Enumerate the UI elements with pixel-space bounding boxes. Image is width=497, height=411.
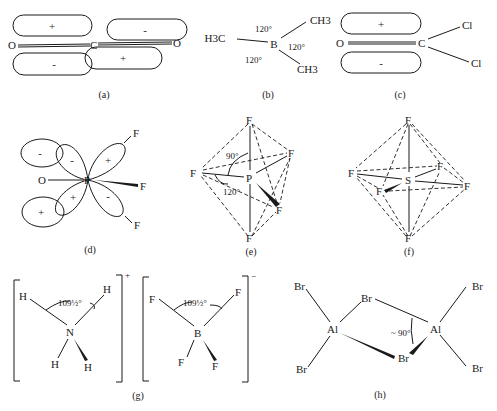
lobe-sign: - — [143, 24, 147, 36]
lobe-sign: + — [49, 20, 55, 32]
atom-label: N — [66, 326, 74, 338]
angle-label: 109½° — [183, 298, 207, 308]
atom-label: F — [149, 293, 155, 305]
atom-label: C — [90, 39, 97, 51]
panel-a-co2: + - - + O C O (a) — [8, 15, 187, 101]
atom-label: F — [437, 160, 443, 172]
panel-caption: (a) — [98, 89, 109, 101]
angle-label: 120° — [245, 55, 263, 65]
panel-c-phosgene: + - O C Cl Cl (c) — [336, 13, 481, 101]
panel-caption: (c) — [394, 89, 405, 101]
lobe-sign: - — [70, 154, 74, 166]
atom-label: F — [133, 127, 139, 139]
charge-label: + — [125, 270, 130, 280]
lobe-sign: + — [38, 206, 44, 218]
atom-label: Br — [361, 292, 372, 304]
angle-label: ~ 90° — [391, 328, 411, 338]
atom-label: H — [84, 361, 92, 373]
atom-label: O — [38, 174, 46, 186]
atom-label: C — [418, 37, 425, 49]
atom-label: F — [140, 180, 146, 192]
atom-label: Br — [472, 280, 483, 292]
angle-label: 120° — [223, 187, 241, 197]
lobe-sign: - — [38, 147, 42, 159]
lobe-sign: + — [120, 52, 126, 64]
atom-label: F — [246, 114, 252, 126]
atom-label: F — [464, 180, 470, 192]
panel-f-sf6: F F F S F F F (f) — [348, 114, 470, 258]
atom-label: S — [405, 174, 411, 186]
angle-label: 109½° — [58, 298, 82, 308]
atom-label: F — [276, 204, 282, 216]
atom-label: O — [8, 39, 16, 51]
atom-label: F — [348, 167, 354, 179]
atom-label: H — [51, 358, 59, 370]
atom-label: F — [246, 232, 252, 244]
atom-label: F — [288, 147, 294, 159]
atom-label: O — [336, 37, 344, 49]
panel-h-al2br6: ~ 90° Br Br Al Al Br Br Br Br (h) — [294, 280, 483, 401]
panel-d-pof3: - - + + + - O P F F F (d) — [21, 127, 146, 256]
panel-caption: (d) — [84, 244, 96, 256]
atom-label: F — [212, 360, 218, 372]
lobe-sign: + — [105, 154, 111, 166]
atom-label: Cl — [462, 19, 472, 31]
atom-label: Al — [430, 323, 441, 335]
atom-label: Br — [296, 363, 307, 375]
atom-label: F — [405, 232, 411, 244]
atom-label: F — [376, 185, 382, 197]
panel-caption: (h) — [374, 389, 386, 401]
atom-label: F — [405, 114, 411, 126]
panel-g-nh4-bf4: + 109½° H H N H H − 109½° F F B F F (g) — [14, 270, 256, 402]
panel-e-pf5: 90° 120° F F P F F F (e) — [190, 114, 294, 258]
atom-label: H — [19, 290, 27, 302]
atom-label: F — [178, 356, 184, 368]
atom-label: B — [194, 327, 201, 339]
atom-label: Br — [398, 352, 409, 364]
atom-label: H — [103, 283, 111, 295]
lobe-sign: - — [106, 190, 110, 202]
panel-caption: (g) — [132, 390, 144, 402]
atom-label: P — [84, 174, 90, 186]
atom-label: P — [246, 172, 252, 184]
atom-label: Br — [294, 280, 305, 292]
atom-label: Br — [472, 362, 483, 374]
atom-label: Cl — [471, 57, 481, 69]
atom-label: F — [235, 286, 241, 298]
atom-label: B — [270, 38, 277, 50]
lobe-sign: + — [378, 18, 384, 30]
atom-label: O — [173, 37, 181, 49]
panel-caption: (b) — [262, 89, 274, 101]
panel-b-trimethylborane: H3C B CH3 CH3 120° 120° 120° (b) — [205, 14, 332, 101]
lobe-sign: - — [379, 57, 383, 69]
atom-label: F — [134, 219, 140, 231]
panel-caption: (f) — [404, 246, 414, 258]
charge-label: − — [251, 271, 256, 281]
lobe-sign: + — [70, 191, 76, 203]
angle-label: 120° — [288, 42, 306, 52]
orbital-lobe — [21, 139, 63, 167]
angle-label: 120° — [255, 24, 273, 34]
lobe-sign: - — [52, 58, 56, 70]
atom-label: Al — [327, 323, 338, 335]
atom-label: CH3 — [310, 14, 331, 26]
atom-label: H3C — [205, 32, 226, 44]
panel-caption: (e) — [245, 246, 256, 258]
atom-label: F — [190, 167, 196, 179]
angle-label: 90° — [226, 151, 239, 161]
atom-label: CH3 — [297, 63, 318, 75]
